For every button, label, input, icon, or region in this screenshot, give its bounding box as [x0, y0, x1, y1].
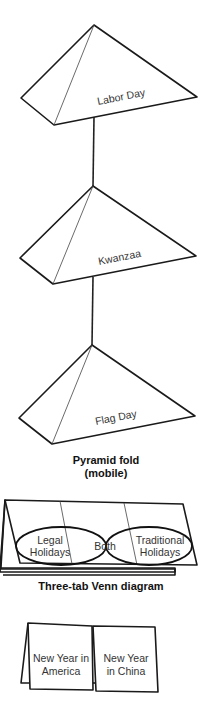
foldable-diagrams: Labor Day Kwanzaa Flag Day Pyramid fold … [0, 0, 212, 703]
pyramid-outline [20, 186, 196, 284]
pyramid-kwanzaa: Kwanzaa [20, 186, 196, 284]
pyramid-caption-line2: (mobile) [85, 467, 128, 479]
venn-right-label-2: Holidays [140, 546, 180, 558]
mobile-string-1 [93, 117, 94, 186]
venn-center-label: Both [94, 540, 116, 552]
card-right-label-1: New Year [104, 652, 149, 664]
three-tab-venn: Legal Holidays Both Traditional Holidays… [0, 500, 197, 592]
two-tab-card: New Year in America New Year in China [21, 623, 158, 692]
venn-left-label-1: Legal [37, 534, 63, 546]
card-left-label-2: America [42, 665, 81, 677]
card-right-label-2: in China [107, 665, 146, 677]
venn-right-label-1: Traditional [136, 534, 185, 546]
pyramid-caption-line1: Pyramid fold [73, 454, 140, 466]
pyramid-outline [21, 25, 197, 125]
pyramid-labor-day: Labor Day [21, 25, 197, 125]
mobile-string-2 [92, 277, 93, 345]
venn-left-label-2: Holidays [30, 546, 70, 558]
pyramid-mobile: Labor Day Kwanzaa Flag Day Pyramid fold … [19, 25, 197, 479]
pyramid-outline [19, 345, 195, 444]
pyramid-flag-day: Flag Day [19, 345, 195, 444]
venn-caption: Three-tab Venn diagram [38, 580, 164, 592]
card-left-label-1: New Year in [33, 652, 89, 664]
diagram-canvas: Labor Day Kwanzaa Flag Day Pyramid fold … [0, 0, 212, 703]
